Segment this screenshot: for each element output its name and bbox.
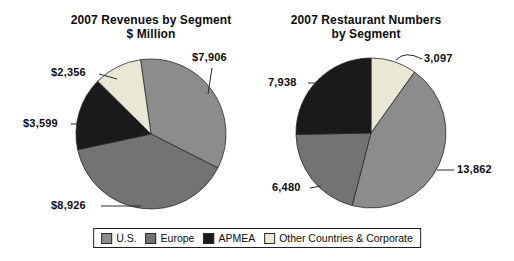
- pie-charts-figure: 2007 Revenues by Segment $ Million $7,90…: [0, 0, 514, 261]
- restaurants-pie-slices: [296, 58, 446, 208]
- slice-label-other-revenue: $2,356: [51, 66, 86, 78]
- leader-line-other-restaurants: [396, 55, 422, 60]
- slice-label-europe-revenue: $8,926: [51, 199, 86, 211]
- revenues-chart-panel: 2007 Revenues by Segment $ Million $7,90…: [0, 0, 257, 261]
- slice-label-us-restaurants: 13,862: [457, 163, 492, 175]
- legend-swatch-us: [101, 233, 112, 244]
- revenues-pie-slices: [76, 59, 226, 209]
- legend-swatch-apmea: [203, 233, 214, 244]
- legend-label-apmea: APMEA: [218, 232, 255, 244]
- slice-label-europe-restaurants: 6,480: [272, 181, 301, 193]
- slice-label-us-revenue: $7,906: [192, 51, 227, 63]
- legend-item-us: U.S.: [101, 232, 136, 244]
- legend-label-other: Other Countries & Corporate: [279, 232, 413, 244]
- pie-slice-apmea: [296, 58, 371, 134]
- revenues-pie: [0, 0, 257, 261]
- restaurants-chart-panel: 2007 Restaurant Numbers by Segment 13,86…: [257, 0, 514, 261]
- slice-label-apmea-revenue: $3,599: [23, 117, 58, 129]
- legend-label-europe: Europe: [161, 232, 195, 244]
- legend-item-europe: Europe: [146, 232, 195, 244]
- legend-item-other: Other Countries & Corporate: [264, 232, 413, 244]
- legend: U.S. Europe APMEA Other Countries & Corp…: [93, 228, 421, 248]
- restaurants-pie: [257, 0, 514, 261]
- legend-swatch-other: [264, 233, 275, 244]
- legend-swatch-europe: [146, 233, 157, 244]
- slice-label-other-restaurants: 3,097: [424, 52, 453, 64]
- legend-label-us: U.S.: [116, 232, 136, 244]
- legend-item-apmea: APMEA: [203, 232, 255, 244]
- slice-label-apmea-restaurants: 7,938: [268, 76, 297, 88]
